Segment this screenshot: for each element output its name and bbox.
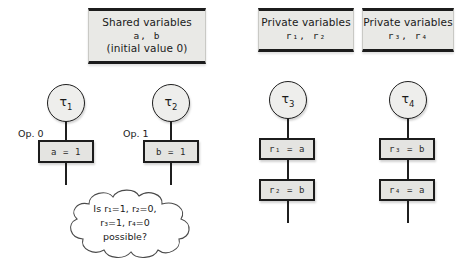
thread-1-operation-0: a = 1 xyxy=(38,140,94,163)
thread-3-operation-1: r₂ = b xyxy=(259,179,315,201)
thread-circle-tau2: τ2 xyxy=(152,84,190,122)
question-cloud: Is r₁=1, r₂=0, r₃=1, r₄=0 possible? xyxy=(55,186,195,262)
thread-2-operation-0: b = 1 xyxy=(143,140,199,163)
thread-3-spine-top xyxy=(287,118,289,138)
thread-4-operation-1: r₄ = a xyxy=(379,179,435,201)
thread-4-label: τ4 xyxy=(402,91,415,109)
shared-variables-names: a, b xyxy=(89,30,205,43)
thread-2-label: τ2 xyxy=(165,94,178,112)
thread-4-operation-1-text: r₄ = a xyxy=(389,185,425,195)
thread-2-op-label: Op. 1 xyxy=(123,128,149,139)
private-variables-box-1: Private variables r₁, r₂ xyxy=(258,8,354,52)
thread-3-operation-0-text: r₁ = a xyxy=(269,144,305,154)
thread-4-operation-0-text: r₃ = b xyxy=(389,144,425,154)
thread-1-label: τ1 xyxy=(60,94,73,112)
thread-3-operation-1-text: r₂ = b xyxy=(269,185,305,195)
thread-2-spine-top xyxy=(170,121,172,141)
shared-variables-box: Shared variables a, b (initial value 0) xyxy=(88,8,206,64)
thread-1-operation-0-text: a = 1 xyxy=(51,147,81,157)
thread-4-operation-0: r₃ = b xyxy=(379,138,435,160)
thread-4-spine-top xyxy=(407,118,409,138)
thread-3-label: τ3 xyxy=(282,91,295,109)
question-line-3: possible? xyxy=(55,230,195,244)
thread-circle-tau3: τ3 xyxy=(269,81,307,119)
thread-circle-tau1: τ1 xyxy=(47,84,85,122)
thread-1-spine-bottom xyxy=(65,163,67,185)
diagram-canvas: Shared variables a, b (initial value 0) … xyxy=(0,0,460,266)
thread-circle-tau4: τ4 xyxy=(389,81,427,119)
question-cloud-text: Is r₁=1, r₂=0, r₃=1, r₄=0 possible? xyxy=(55,202,195,243)
shared-variables-initial: (initial value 0) xyxy=(89,42,205,56)
thread-1-spine-top xyxy=(65,121,67,141)
thread-2-spine-bottom xyxy=(170,163,172,185)
private-variables-2-title: Private variables xyxy=(363,16,453,30)
question-line-2: r₃=1, r₄=0 xyxy=(55,216,195,230)
thread-4-spine-mid xyxy=(407,160,409,179)
thread-4-spine-bottom xyxy=(407,201,409,223)
thread-1-op-label: Op. 0 xyxy=(18,128,44,139)
private-variables-box-2: Private variables r₃, r₄ xyxy=(362,8,454,52)
thread-3-operation-0: r₁ = a xyxy=(259,138,315,160)
thread-3-spine-mid xyxy=(287,160,289,179)
shared-variables-title: Shared variables xyxy=(89,16,205,30)
thread-2-operation-0-text: b = 1 xyxy=(156,147,186,157)
private-variables-1-title: Private variables xyxy=(259,16,353,30)
private-variables-2-names: r₃, r₄ xyxy=(363,30,453,43)
question-line-1: Is r₁=1, r₂=0, xyxy=(55,202,195,216)
thread-3-spine-bottom xyxy=(287,201,289,223)
private-variables-1-names: r₁, r₂ xyxy=(259,30,353,43)
